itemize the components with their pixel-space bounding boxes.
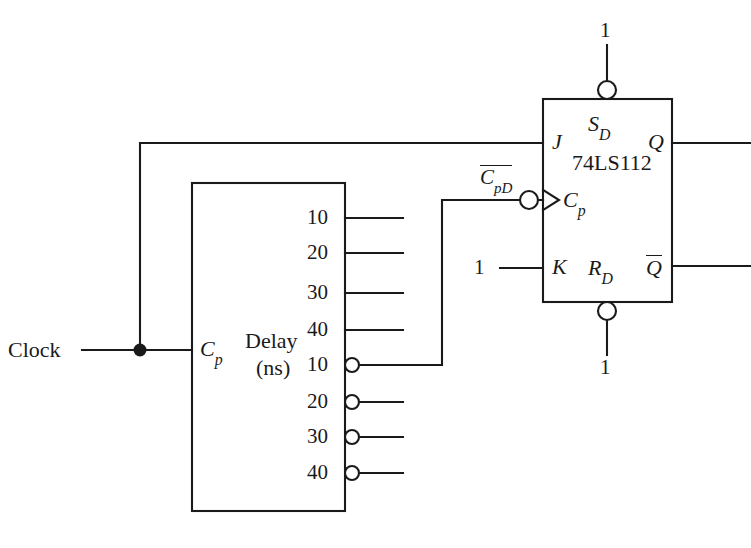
flipflop-rd-letter: R [588, 255, 601, 280]
flipflop-part-number: 74LS112 [572, 152, 652, 174]
constant-one-set: 1 [600, 20, 611, 41]
delay-pin-label-10-inverted: 10 [307, 354, 328, 375]
bubble-delay-out-30-inv [345, 430, 359, 444]
cpd-signal-label: CpD [480, 165, 512, 192]
flipflop-cp-subscript: p [578, 202, 586, 219]
flipflop-k-label: K [552, 256, 567, 278]
flipflop-cp-label: Cp [563, 189, 586, 215]
flipflop-rd-subscript: D [601, 270, 612, 287]
constant-one-reset: 1 [600, 357, 611, 378]
delay-block-title-line2: (ns) [256, 357, 290, 379]
cpd-signal-overline: CpD [480, 165, 512, 192]
wire-delay-10inv-to-cp [359, 200, 520, 365]
flipflop-cp-letter: C [563, 187, 578, 212]
flipflop-j-label: J [552, 131, 562, 153]
flipflop-sd-subscript: D [599, 126, 610, 143]
delay-pin-label-40-inverted: 40 [307, 462, 328, 483]
delay-cp-pin-subscript: p [215, 351, 223, 368]
circuit-schematic-svg [0, 0, 751, 548]
delay-cp-pin-letter: C [200, 336, 215, 361]
flipflop-q-label: Q [648, 131, 664, 153]
delay-pin-label-10: 10 [307, 207, 328, 228]
circuit-diagram-canvas: Clock Cp Delay (ns) 10 20 30 40 10 20 30… [0, 0, 751, 548]
cpd-signal-letter: C [480, 165, 494, 189]
constant-one-k: 1 [474, 257, 485, 278]
junction-dot-clock [134, 344, 147, 357]
delay-pin-label-20: 20 [307, 242, 328, 263]
bubble-delay-out-40-inv [345, 466, 359, 480]
flipflop-sd-label: SD [588, 113, 610, 139]
delay-pin-label-30: 30 [307, 282, 328, 303]
clock-label: Clock [8, 339, 61, 361]
delay-cp-pin-label: Cp [200, 338, 223, 364]
delay-block-title-line1: Delay [245, 330, 298, 352]
delay-pin-label-40: 40 [307, 319, 328, 340]
delay-pin-label-20-inverted: 20 [307, 391, 328, 412]
flipflop-sd-letter: S [588, 111, 599, 136]
bubble-set-sd [598, 81, 616, 99]
flipflop-rd-label: RD [588, 257, 613, 283]
bubble-reset-rd [598, 302, 616, 320]
bubble-delay-out-10-inv [345, 358, 359, 372]
bubble-delay-out-20-inv [345, 395, 359, 409]
flipflop-qbar-label: Q [646, 255, 662, 279]
delay-pin-label-30-inverted: 30 [307, 426, 328, 447]
cpd-signal-subscript: pD [494, 180, 512, 196]
bubble-flipflop-cp [520, 191, 538, 209]
flipflop-qbar-letter: Q [646, 255, 662, 279]
